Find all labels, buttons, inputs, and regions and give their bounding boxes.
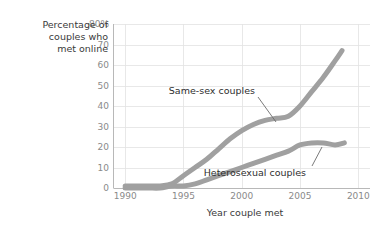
y-tick-label: 40: [98, 101, 110, 111]
y-tick-label: 50: [98, 81, 110, 91]
y-axis-title-line-3: met online: [57, 43, 108, 54]
vertical-gridlines: [126, 24, 359, 188]
x-tick-label: 2005: [289, 191, 312, 201]
series-line-same-sex-couples: [125, 51, 342, 186]
heterosexual-annotation-label: Heterosexual couples: [204, 167, 306, 178]
x-tick-label: 1995: [172, 191, 195, 201]
same-sex-annotation-label: Same-sex couples: [169, 85, 255, 96]
y-tick-label: 0: [103, 183, 109, 193]
x-tick-label: 2010: [347, 191, 370, 201]
y-tick-label: 60: [98, 60, 110, 70]
line-chart: 01020304050607080% 19901995200020052010 …: [0, 0, 383, 226]
y-tick-label: 10: [98, 163, 110, 173]
heterosexual-leader-line: [312, 147, 322, 166]
x-axis-title: Year couple met: [206, 207, 284, 218]
horizontal-gridlines: [114, 25, 371, 189]
y-tick-label: 20: [98, 142, 110, 152]
x-tick-label: 2000: [230, 191, 253, 201]
y-axis-title-line-1: Percentage of: [42, 19, 108, 30]
series-line-heterosexual-couples: [125, 143, 344, 189]
y-tick-label: 30: [98, 122, 110, 132]
x-axis-tick-labels: 19901995200020052010: [114, 191, 370, 201]
chart-container: 01020304050607080% 19901995200020052010 …: [0, 0, 383, 226]
x-tick-label: 1990: [114, 191, 137, 201]
y-axis-title-line-2: couples who: [49, 31, 108, 42]
